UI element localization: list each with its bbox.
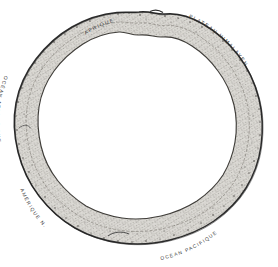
label-ocean-atlantique-text: OCÉAN ATLANTIQUE (0, 75, 8, 143)
band-inner-contour (38, 32, 236, 219)
annular-band (0, 0, 278, 267)
annular-diagram-svg: AFRIQUE PLATEAU HIMALAYEN OCÉAN ATLANTIQ… (0, 0, 278, 267)
figure-canvas: Coupe annulaire schématique (0, 0, 278, 267)
label-ocean-atlantique: OCÉAN ATLANTIQUE (0, 75, 8, 143)
